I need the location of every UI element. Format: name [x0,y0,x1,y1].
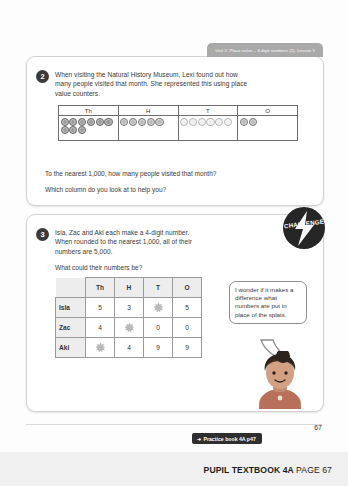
unit-tab: Unit 2: Place value – 4-digit numbers (2… [207,43,323,57]
place-value-counter [69,126,77,134]
place-value-counter [180,118,188,126]
place-value-counter [198,118,206,126]
practice-book-label: Practice book 4A p47 [204,436,256,442]
question-3-number: 3 [36,228,49,241]
place-value-counter [189,118,197,126]
answer-grid-row: Zac400 [56,318,202,338]
place-value-counter [69,118,77,126]
question-3-line-2: When rounded to the nearest 1,000, all o… [55,237,270,246]
page-number: 67 [314,424,322,431]
place-value-counter [215,118,223,126]
counter-group-th [61,118,117,135]
answer-header-o: O [173,278,202,298]
speech-bubble-text: I wonder if it makes a difference what n… [235,286,293,318]
pv-cell-th [59,116,119,141]
answer-row-label: Zac [56,318,86,338]
question-2-number: 2 [36,70,49,83]
answer-grid-row: Isla535 [56,298,202,318]
footer-label: PUPIL TEXTBOOK 4A PAGE 67 [204,465,332,475]
place-value-counter [78,126,86,134]
answer-grid-table: Th H T O Isla535Zac400Aki499 [55,277,202,358]
question-2-followup-2: Which column do you look at to help you? [45,185,166,194]
place-value-counter [120,118,128,126]
question-2-line-2: many people visited that month. She repr… [55,79,313,88]
place-value-counter [61,118,69,126]
footer-page-label: PAGE 67 [296,465,332,475]
place-value-header-row: Th H T O [59,106,298,116]
splat-icon [153,302,164,313]
answer-cell-digit[interactable]: 5 [173,298,202,318]
place-value-counter [78,118,86,126]
pv-cell-o [238,116,298,141]
answer-grid-body: Isla535Zac400Aki499 [56,298,202,358]
place-value-counter [249,118,257,126]
question-2-line-1: When visiting the Natural History Museum… [55,70,313,79]
place-value-counter-row [59,116,298,141]
answer-cell-digit[interactable]: 4 [86,318,115,338]
counter-group-h [120,118,176,126]
answer-header-t: T [144,278,173,298]
footer-divider [26,424,322,425]
place-value-counter [147,118,155,126]
place-value-counter [61,126,69,134]
answer-grid-row: Aki499 [56,338,202,358]
place-value-counter [224,118,232,126]
answer-header-th: Th [86,278,115,298]
answer-cell-splat[interactable] [144,298,173,318]
answer-cell-digit[interactable]: 0 [173,318,202,338]
speech-bubble: I wonder if it makes a difference what n… [229,281,307,324]
pv-header-h: H [118,106,178,116]
place-value-counter [240,118,248,126]
pv-header-o: O [238,106,298,116]
answer-cell-digit[interactable]: 4 [115,338,144,358]
textbook-page: Unit 2: Place value – 4-digit numbers (2… [0,0,348,486]
pv-cell-t [178,116,238,141]
pv-cell-h [118,116,178,141]
place-value-counter [104,118,112,126]
question-3-line-3: numbers are 5,000. [55,247,270,256]
practice-book-tab[interactable]: ➜ Practice book 4A p47 [192,433,262,444]
place-value-counter [206,118,214,126]
arrow-right-icon: ➜ [197,436,201,442]
answer-grid-corner [56,278,86,298]
pv-header-th: Th [59,106,119,116]
question-2-line-3: value counters. [55,89,313,98]
place-value-counter [87,118,95,126]
place-value-counter [155,118,163,126]
answer-cell-splat[interactable] [115,318,144,338]
challenge-badge: CHALLENGE [283,207,325,249]
splat-icon [124,322,135,333]
question-2-followup-1: To the nearest 1,000, how many people vi… [45,169,216,178]
answer-cell-digit[interactable]: 3 [115,298,144,318]
answer-cell-digit[interactable]: 9 [144,338,173,358]
answer-cell-digit[interactable]: 5 [86,298,115,318]
counter-group-t [180,118,236,126]
place-value-counter [138,118,146,126]
answer-row-label: Isla [56,298,86,318]
counter-group-o [240,118,296,126]
answer-cell-digit[interactable]: 9 [173,338,202,358]
answer-cell-splat[interactable] [86,338,115,358]
footer-book-title: PUPIL TEXTBOOK 4A [204,465,294,475]
answer-grid-header-row: Th H T O [56,278,202,298]
character-illustration [249,351,311,409]
question-2-card: Unit 2: Place value – 4-digit numbers (2… [26,56,324,206]
unit-tab-label: Unit 2: Place value – 4-digit numbers (2… [215,48,315,53]
question-3-prompt: What could their numbers be? [55,263,142,272]
question-3-line-1: Isla, Zac and Aki each make a 4-digit nu… [55,228,270,237]
place-value-counter-table: Th H T O [58,105,298,141]
place-value-counter [129,118,137,126]
pv-header-t: T [178,106,238,116]
answer-row-label: Aki [56,338,86,358]
answer-header-h: H [115,278,144,298]
splat-icon [95,342,106,353]
place-value-counter [96,118,104,126]
answer-cell-digit[interactable]: 0 [144,318,173,338]
question-3-card: CHALLENGE 3 Isla, Zac and Aki each make … [26,214,324,412]
